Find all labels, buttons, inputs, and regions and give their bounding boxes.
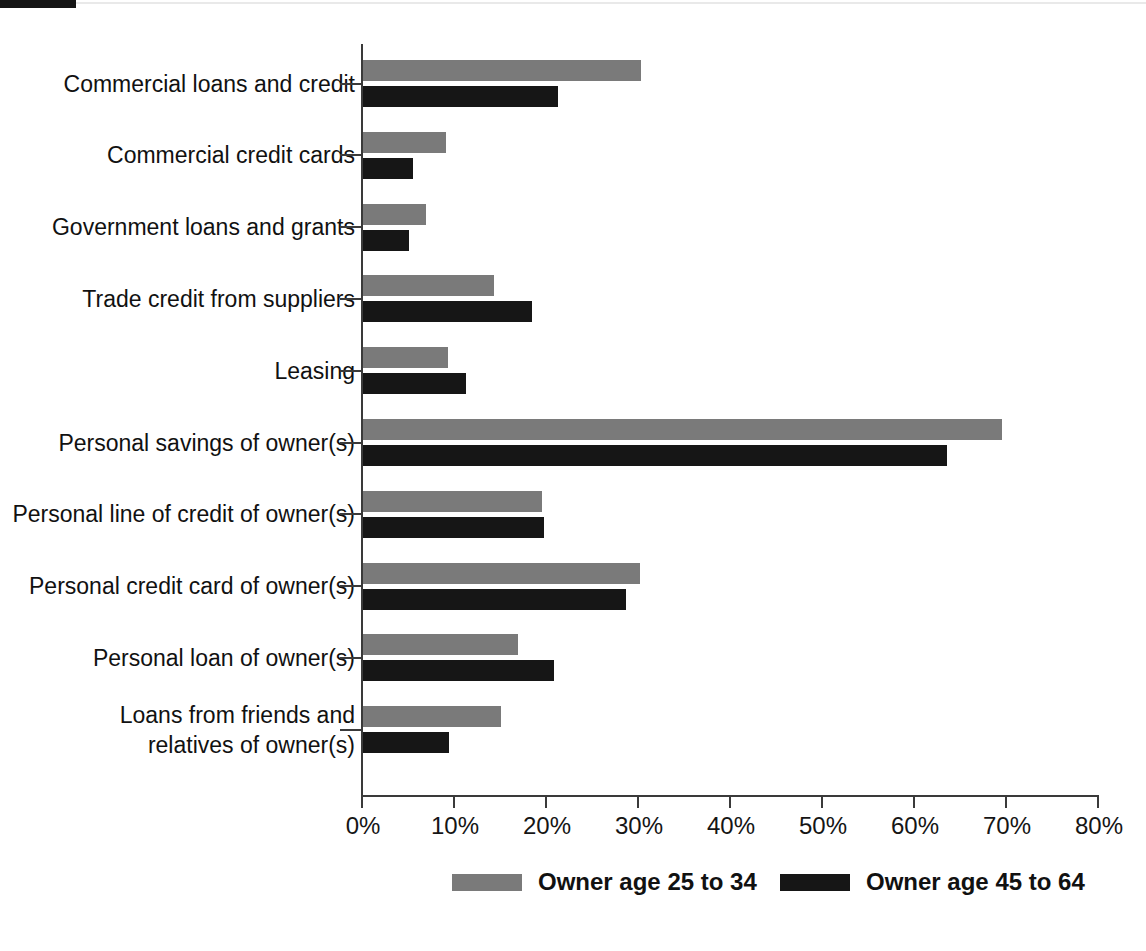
category-label: Personal savings of owner(s) <box>58 428 355 458</box>
bar-series-1 <box>363 86 558 107</box>
category-label: Commercial credit cards <box>107 140 355 170</box>
bar-series-1 <box>363 517 544 538</box>
category-axis-tick <box>340 298 362 300</box>
legend-swatch-icon-series-1 <box>780 874 850 891</box>
bar-series-0 <box>363 60 641 81</box>
category-axis-tick <box>340 729 362 731</box>
bar-series-0 <box>363 204 426 225</box>
x-axis-tick <box>637 797 639 808</box>
x-axis-tick <box>821 797 823 808</box>
x-axis-tick <box>545 797 547 808</box>
category-axis-tick <box>340 370 362 372</box>
x-axis-tick <box>729 797 731 808</box>
bar-series-0 <box>363 491 542 512</box>
bar-series-1 <box>363 230 409 251</box>
category-axis-tick <box>340 513 362 515</box>
category-axis-tick <box>340 154 362 156</box>
legend-swatch-icon-series-0 <box>452 874 522 891</box>
category-axis-tick <box>340 657 362 659</box>
x-axis-tick <box>1097 797 1099 808</box>
legend-item-owner-age-25-to-34: Owner age 25 to 34 <box>452 868 757 896</box>
bar-series-0 <box>363 634 518 655</box>
bar-series-0 <box>363 563 640 584</box>
x-axis-tick-label: 10% <box>415 812 495 840</box>
bar-series-1 <box>363 732 449 753</box>
x-axis-tick-label: 40% <box>691 812 771 840</box>
category-label: Personal credit card of owner(s) <box>29 571 355 601</box>
x-axis-tick-label: 50% <box>783 812 863 840</box>
category-axis-tick <box>340 585 362 587</box>
bar-series-1 <box>363 158 413 179</box>
bar-series-1 <box>363 589 626 610</box>
legend-item-owner-age-45-to-64: Owner age 45 to 64 <box>780 868 1085 896</box>
category-label: Trade credit from suppliers <box>82 284 355 314</box>
category-label: Commercial loans and credit <box>64 69 355 99</box>
category-axis-tick <box>340 83 362 85</box>
bar-series-0 <box>363 347 448 368</box>
x-axis-tick <box>361 797 363 808</box>
x-axis-tick-label: 70% <box>967 812 1047 840</box>
bar-series-1 <box>363 660 554 681</box>
category-label: Personal loan of owner(s) <box>93 643 355 673</box>
x-axis-tick-label: 60% <box>875 812 955 840</box>
category-label: Government loans and grants <box>52 212 355 242</box>
chart-page: 0%10%20%30%40%50%60%70%80% Commercial lo… <box>0 0 1146 951</box>
x-axis-tick-label: 30% <box>599 812 679 840</box>
x-axis-tick <box>913 797 915 808</box>
bar-series-0 <box>363 275 494 296</box>
category-axis-tick <box>340 226 362 228</box>
x-axis-tick <box>453 797 455 808</box>
x-axis-tick-label: 20% <box>507 812 587 840</box>
chart-legend: Owner age 25 to 34 Owner age 45 to 64 <box>0 868 1146 908</box>
bar-chart-plot-area: 0%10%20%30%40%50%60%70%80% Commercial lo… <box>0 0 1146 951</box>
bar-series-1 <box>363 445 947 466</box>
category-label: Loans from friends and relatives of owne… <box>120 700 355 760</box>
bar-series-1 <box>363 373 466 394</box>
x-axis-tick-label: 80% <box>1059 812 1139 840</box>
bar-series-1 <box>363 301 532 322</box>
legend-label-series-0: Owner age 25 to 34 <box>538 868 757 896</box>
category-label: Personal line of credit of owner(s) <box>12 499 355 529</box>
bar-series-0 <box>363 132 446 153</box>
x-axis-tick <box>1005 797 1007 808</box>
category-axis-tick <box>340 442 362 444</box>
x-axis-tick-label: 0% <box>323 812 403 840</box>
bar-series-0 <box>363 706 501 727</box>
legend-label-series-1: Owner age 45 to 64 <box>866 868 1085 896</box>
bar-series-0 <box>363 419 1002 440</box>
